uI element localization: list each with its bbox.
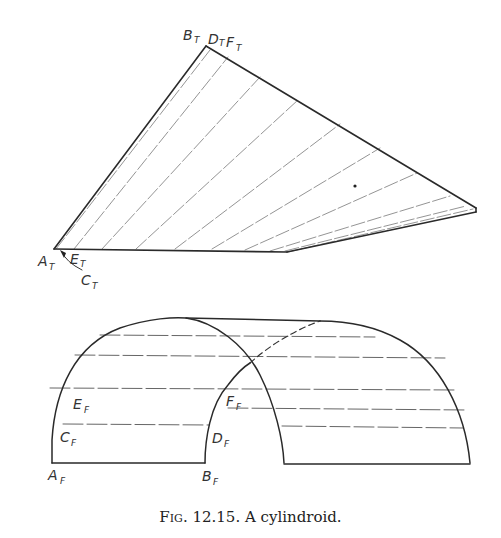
svg-text:F: F [60,476,66,486]
svg-text:F: F [84,405,90,415]
caption-number: 12.15. [192,508,240,526]
figure-page: B T D T F T A T E T C T [0,0,501,538]
caption-prefix: Fig. [159,508,187,526]
top-view-outline [54,46,476,252]
svg-text:F: F [213,477,219,487]
label-d-front: D [212,430,223,446]
label-b-front: B [202,468,212,484]
svg-text:T: T [49,262,56,272]
front-view [50,318,470,464]
svg-text:F: F [236,402,242,412]
svg-text:T: T [194,35,201,45]
caption-text: A cylindroid. [245,508,342,526]
label-b-top: B [183,27,193,43]
label-a-top: A [37,253,48,269]
top-view [54,46,476,270]
label-c-top: C [81,272,91,288]
label-e-top: E [70,251,79,267]
cylindroid-drawing: B T D T F T A T E T C T [0,0,501,538]
front-view-labels: E F C F A F F F D F B F [47,393,242,487]
dot-mark [353,184,356,187]
label-e-front: E [73,396,82,412]
svg-text:T: T [80,259,87,269]
label-d-top: D [208,31,219,47]
figure-caption: Fig. 12.15. A cylindroid. [0,508,501,526]
front-view-elements [50,335,467,428]
svg-text:F: F [71,438,77,448]
label-a-front: A [47,467,58,483]
svg-text:T: T [219,38,226,48]
label-c-front: C [60,429,70,445]
svg-text:T: T [92,281,99,291]
svg-text:F: F [224,439,230,449]
front-view-outline [52,318,470,464]
label-f-front: F [226,393,235,409]
svg-text:T: T [236,43,243,53]
label-f-top: F [226,34,235,50]
